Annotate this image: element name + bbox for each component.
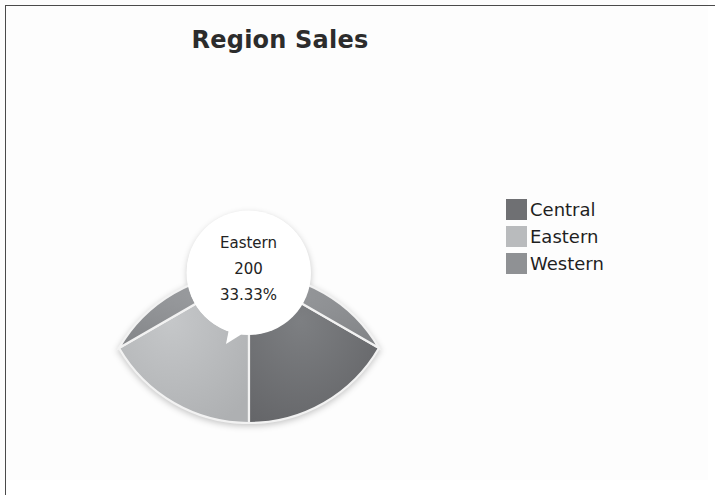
legend-item-western[interactable]: Western: [506, 250, 604, 277]
legend-label: Central: [530, 199, 596, 220]
legend-swatch-icon: [506, 253, 527, 274]
tooltip-label: Eastern: [186, 231, 311, 257]
legend-item-eastern[interactable]: Eastern: [506, 223, 604, 250]
tooltip-value: 200: [186, 257, 311, 283]
tooltip: Eastern 200 33.33%: [186, 210, 311, 335]
tooltip-percent: 33.33%: [186, 283, 311, 309]
legend: Central Eastern Western: [506, 196, 604, 277]
legend-swatch-icon: [506, 199, 527, 220]
tooltip-content: Eastern 200 33.33%: [186, 231, 311, 308]
legend-label: Eastern: [530, 226, 598, 247]
page-title: Region Sales: [0, 26, 560, 54]
legend-item-central[interactable]: Central: [506, 196, 604, 223]
legend-label: Western: [530, 253, 604, 274]
legend-swatch-icon: [506, 226, 527, 247]
